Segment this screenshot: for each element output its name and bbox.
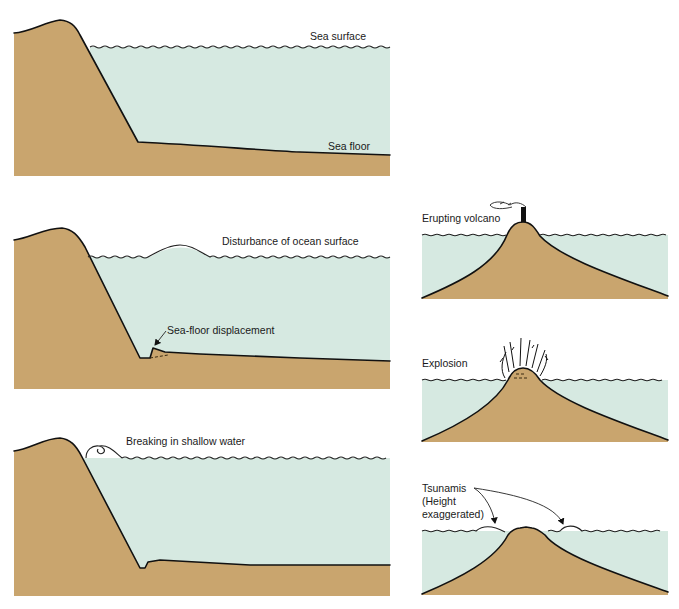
label-explosion: Explosion	[422, 357, 468, 369]
panel-normal: Sea surface Sea floor	[14, 20, 390, 176]
panel-erupting-volcano: Erupting volcano	[422, 202, 668, 299]
label-tsunamis-line3: exaggerated)	[422, 508, 484, 520]
eruption-column	[521, 207, 526, 222]
label-sea-surface: Sea surface	[310, 30, 366, 42]
label-tsunamis-line2: (Height	[422, 495, 456, 507]
eruption-plume	[490, 202, 526, 209]
tsunami-arrow-right	[474, 488, 563, 524]
panel-explosion: Explosion	[422, 338, 668, 442]
label-sea-floor: Sea floor	[328, 140, 371, 152]
panel-breaking: Breaking in shallow water	[14, 435, 390, 596]
panel-disturbance: Disturbance of ocean surface Sea-floor d…	[14, 228, 390, 389]
tsunami-diagram: Sea surface Sea floor Disturbance of oce…	[0, 0, 679, 609]
label-disturbance: Disturbance of ocean surface	[222, 235, 359, 247]
label-tsunamis-line1: Tsunamis	[422, 482, 466, 494]
breaking-wave	[86, 446, 122, 458]
panel-tsunamis: Tsunamis (Height exaggerated)	[422, 482, 668, 595]
label-breaking: Breaking in shallow water	[126, 435, 246, 447]
label-displacement: Sea-floor displacement	[167, 324, 274, 336]
label-erupting-volcano: Erupting volcano	[422, 212, 500, 224]
